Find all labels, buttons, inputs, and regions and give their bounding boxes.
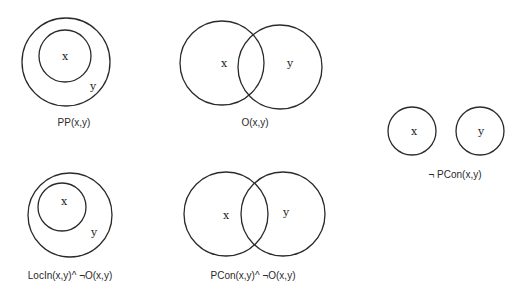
diagram-pcon-not-o: x y PCon(x,y)^ ¬O(x,y) (184, 172, 325, 281)
label-y: y (90, 226, 98, 239)
label-x: x (62, 50, 69, 63)
diagram-pp: x y PP(x,y) (22, 18, 110, 128)
label-x: x (61, 195, 68, 208)
caption-pp: PP(x,y) (58, 117, 91, 128)
diagram-overlap: x y O(x,y) (180, 21, 322, 128)
label-x: x (411, 125, 418, 138)
caption-locin: LocIn(x,y)^ ¬O(x,y) (28, 270, 112, 281)
diagram-canvas: x y PP(x,y) x y O(x,y) x y ¬ PCon(x,y) x… (0, 0, 530, 290)
label-x: x (221, 57, 228, 70)
label-y: y (89, 80, 97, 93)
label-y: y (282, 206, 290, 219)
region-y-circle (28, 173, 112, 257)
spatial-relations-figure: x y PP(x,y) x y O(x,y) x y ¬ PCon(x,y) x… (0, 0, 530, 290)
caption-not-pcon: ¬ PCon(x,y) (428, 169, 481, 180)
region-y-circle (238, 25, 322, 109)
label-y: y (477, 125, 485, 138)
diagram-not-pcon: x y ¬ PCon(x,y) (388, 107, 504, 180)
diagram-locin: x y LocIn(x,y)^ ¬O(x,y) (28, 173, 112, 281)
label-x: x (223, 209, 230, 222)
label-y: y (286, 57, 294, 70)
caption-overlap: O(x,y) (241, 117, 268, 128)
caption-pcon-not-o: PCon(x,y)^ ¬O(x,y) (211, 270, 296, 281)
